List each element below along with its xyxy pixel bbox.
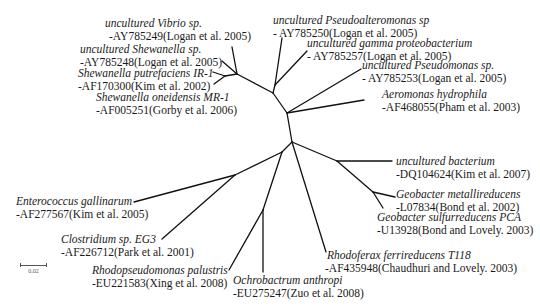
taxon-accession: -AF277567(Kim et al. 2005): [16, 208, 148, 221]
branch-right-stem: [292, 142, 337, 161]
branch-rhodoferax: [292, 142, 326, 252]
branch-shewanella-oneidensis: [214, 76, 225, 84]
taxon-name: Geobacter metallireducens: [396, 188, 520, 201]
taxon-name: Rhodopseudomonas palustris: [92, 264, 228, 277]
scale-bar-tick-right: [46, 263, 47, 267]
scale-bar-label: 0.02: [20, 268, 47, 274]
taxon-vibrio: uncultured Vibrio sp. -AY785249(Logan et…: [105, 17, 251, 43]
taxon-rhodopseudomonas: Rhodopseudomonas palustris -EU221583(Xin…: [92, 264, 228, 290]
taxon-name: Shewanella putrefaciens IR-1: [78, 67, 214, 80]
branch-pa-gamma-stem: [273, 85, 275, 93]
taxon-name: uncultured bacterium: [396, 155, 530, 168]
taxon-accession: -AF468055(Pham et al. 2003): [382, 101, 520, 114]
branch-central-spine: [287, 113, 292, 142]
taxon-name: uncultured gamma proteobacterium: [307, 37, 472, 50]
taxon-name: Aeromonas hydrophila: [382, 88, 520, 101]
taxon-accession: - AY785253(Logan et al. 2005): [362, 72, 506, 85]
scale-bar: 0.02: [20, 263, 47, 277]
taxon-name: Enterococcus gallinarum: [16, 195, 148, 208]
taxon-ochrobactrum: Ochrobactrum anthropi -EU275247(Zuo et a…: [233, 274, 364, 300]
taxon-shewanella-oneidensis: Shewanella oneidensis MR-1 -AF005251(Gor…: [96, 91, 237, 117]
taxon-accession: -AF005251(Gorby et al. 2006): [96, 104, 237, 117]
taxon-accession: -EU221583(Xing et al. 2008): [92, 277, 228, 290]
taxon-rhodoferax: Rhodoferax ferrireducens T118 -AF435948(…: [325, 249, 517, 275]
taxon-accession: -AF226712(Park et al. 2001): [61, 246, 194, 259]
scale-bar-tick-left: [20, 263, 21, 267]
taxon-name: Shewanella oneidensis MR-1: [96, 91, 237, 104]
taxon-shewanella-sp: uncultured Shewanella sp. -AY785248(Loga…: [80, 43, 222, 69]
branch-upper-left-stem: [237, 74, 273, 93]
taxon-aeromonas: Aeromonas hydrophila -AF468055(Pham et a…: [382, 88, 520, 114]
branch-upper-spine: [273, 93, 287, 113]
taxon-name: Rhodoferax ferrireducens T118: [325, 249, 517, 262]
branch-rhodo-ochro-stem: [263, 152, 282, 210]
taxon-accession: -U13928(Bond and Lovely. 2003): [377, 224, 533, 237]
taxon-accession: -AY785249(Logan et al. 2005): [105, 30, 251, 43]
taxon-enterococcus: Enterococcus gallinarum -AF277567(Kim et…: [16, 195, 148, 221]
taxon-shewanella-putrefaciens: Shewanella putrefaciens IR-1 -AF170300(K…: [78, 67, 214, 93]
branch-left-lower-stem: [282, 142, 292, 152]
taxon-name: uncultured Pseudomonas sp.: [362, 59, 506, 72]
taxon-pseudomonas: uncultured Pseudomonas sp. - AY785253(Lo…: [362, 59, 506, 85]
branch-shewanella-putrefaciens: [213, 72, 225, 76]
taxon-accession: -DQ104624(Kim et al. 2007): [396, 168, 530, 181]
taxon-name: Geobacter sulfurreducens PCA: [377, 211, 533, 224]
taxon-name: uncultured Vibrio sp.: [105, 17, 251, 30]
taxon-name: Clostridium sp. EG3: [61, 233, 194, 246]
taxon-name: uncultured Pseudoalteromonas sp: [273, 14, 429, 27]
taxon-geobacter-sulfurreducens: Geobacter sulfurreducens PCA -U13928(Bon…: [377, 211, 533, 237]
phylogenetic-tree-figure: uncultured Vibrio sp. -AY785249(Logan et…: [0, 0, 540, 308]
taxon-name: Ochrobactrum anthropi: [233, 274, 364, 287]
scale-bar-line: [20, 265, 46, 266]
taxon-accession: -EU275247(Zuo et al. 2008): [233, 287, 364, 300]
taxon-name: uncultured Shewanella sp.: [80, 43, 222, 56]
taxon-uncultured-bacterium: uncultured bacterium -DQ104624(Kim et al…: [396, 155, 530, 181]
branch-shewanella-cluster: [225, 74, 237, 76]
branch-geobacter-stem: [337, 161, 373, 192]
taxon-clostridium: Clostridium sp. EG3 -AF226712(Park et al…: [61, 233, 194, 259]
branch-rhodopseudomonas: [229, 210, 263, 270]
